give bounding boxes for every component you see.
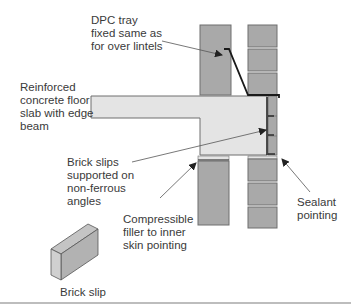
inner-skin-lower-block <box>198 161 229 225</box>
concrete-slab <box>91 96 267 155</box>
label-brick-slip: Brick slip <box>60 286 106 299</box>
outer-skin-lower-bricks <box>248 159 277 228</box>
outer-skin-upper-bricks <box>248 25 277 95</box>
floor-slab-edge-diagram <box>0 0 351 306</box>
label-compressible-filler: Compressible filler to inner skin pointi… <box>123 213 193 252</box>
label-sealant-pointing: Sealant pointing <box>297 196 337 222</box>
inner-skin-upper-block <box>200 25 231 95</box>
bottom-divider <box>0 302 351 304</box>
brick-slips <box>268 96 277 155</box>
label-brick-slips: Brick slips supported on non-ferrous ang… <box>67 156 134 208</box>
label-slab: Reinforced concrete floor slab with edge… <box>20 81 94 133</box>
compressible-filler <box>198 156 229 160</box>
label-dpc-tray: DPC tray fixed same as for over lintels <box>91 14 163 53</box>
brick-slip-illustration <box>51 224 98 280</box>
